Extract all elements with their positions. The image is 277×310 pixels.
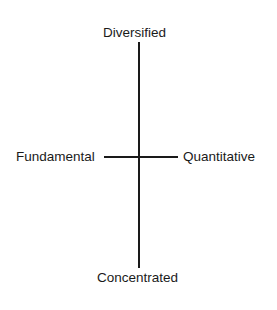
label-right: Quantitative: [183, 149, 255, 165]
label-bottom: Concentrated: [97, 270, 178, 286]
label-top: Diversified: [103, 25, 166, 41]
vertical-axis-line: [138, 42, 140, 268]
label-left: Fundamental: [16, 149, 95, 165]
horizontal-axis-line: [104, 156, 178, 158]
